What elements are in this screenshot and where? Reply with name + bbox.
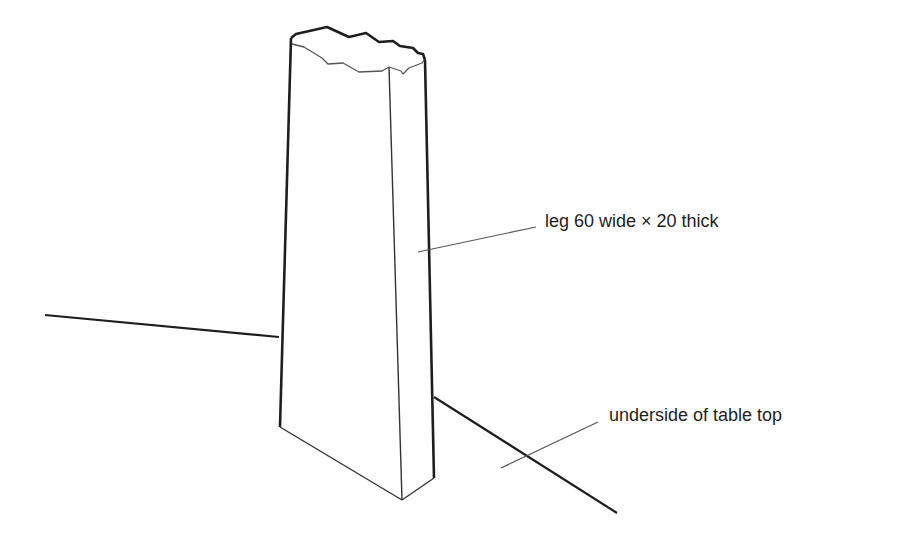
- table-top-edge-left: [45, 315, 279, 337]
- leg-leader-line: [418, 227, 536, 252]
- table-top-edge-right: [434, 397, 617, 513]
- leg-face-edge: [389, 67, 402, 500]
- leg-bottom-side: [402, 478, 434, 500]
- leg-left-edge: [280, 38, 291, 427]
- table-top-label: underside of table top: [609, 406, 782, 424]
- diagram-canvas: [0, 0, 901, 540]
- leg-broken-top-inner: [292, 44, 424, 74]
- table-leg: [280, 27, 434, 500]
- leg-bottom-front: [280, 427, 402, 500]
- leg-right-edge: [425, 60, 434, 478]
- leg-broken-top-outer: [291, 27, 425, 60]
- table-top-leader-line: [501, 422, 598, 468]
- leg-dimension-label: leg 60 wide × 20 thick: [545, 212, 719, 230]
